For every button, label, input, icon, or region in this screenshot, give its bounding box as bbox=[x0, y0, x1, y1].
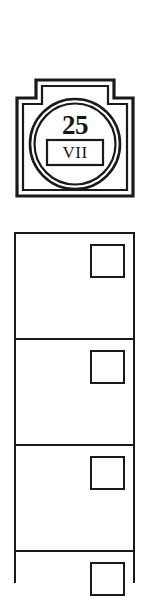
list-item-content bbox=[22, 244, 83, 332]
checkbox[interactable] bbox=[90, 562, 125, 596]
list-item-content bbox=[22, 456, 83, 544]
checkbox[interactable] bbox=[90, 350, 125, 384]
badge-graphic: 25 VII bbox=[14, 76, 136, 200]
list-item[interactable] bbox=[16, 234, 133, 340]
route-marker-badge: 25 VII bbox=[14, 76, 136, 200]
list-item-content bbox=[22, 350, 83, 438]
list-item[interactable] bbox=[16, 552, 133, 600]
checkbox[interactable] bbox=[90, 244, 125, 278]
list-item[interactable] bbox=[16, 446, 133, 552]
checkbox-column bbox=[14, 232, 135, 583]
list-item-content bbox=[22, 562, 83, 600]
badge-number: 25 bbox=[62, 110, 88, 140]
checkbox[interactable] bbox=[90, 456, 125, 490]
list-item[interactable] bbox=[16, 340, 133, 446]
badge-roman-numeral: VII bbox=[62, 143, 87, 162]
